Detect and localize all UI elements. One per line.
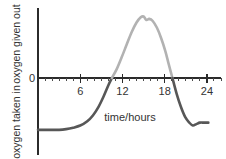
chart-canvas: 6121824 0 time/hours oxygen given out ox… (0, 0, 226, 159)
x-axis-tick-label: 12 (116, 85, 128, 97)
x-axis-tick-label: 18 (159, 85, 171, 97)
x-axis-tick-label: 24 (201, 85, 213, 97)
axes-group (38, 8, 221, 155)
data-curve (38, 78, 112, 130)
y-axis-title-oxygen-given-out: oxygen given out (10, 4, 22, 83)
zero-axis-label: 0 (29, 72, 35, 84)
x-axis-tick-labels: 6121824 (77, 85, 213, 97)
x-axis-title: time/hours (104, 111, 156, 123)
data-curve (112, 16, 173, 78)
y-axis-title-oxygen-taken-in: oxygen taken in (10, 85, 22, 159)
oxygen-exchange-chart: 6121824 0 time/hours oxygen given out ox… (0, 0, 226, 159)
x-axis-tick-label: 6 (77, 85, 83, 97)
